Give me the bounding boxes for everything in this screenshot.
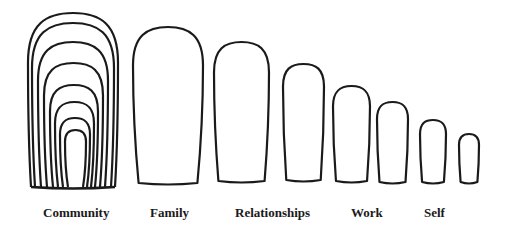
dome-shapes [133,27,479,185]
label-self: Self [424,205,445,220]
dome-relationships [214,42,269,183]
community-arch [65,130,86,187]
dome-shape-4 [283,64,324,182]
label-work: Work [351,205,383,220]
label-family: Family [150,205,189,220]
community-base-line [31,187,115,189]
dome-shape-8 [459,134,479,184]
label-community: Community [43,205,109,220]
dome-self [420,120,446,184]
diagram-canvas [0,0,506,225]
dome-family [133,27,203,185]
dome-shape-6 [377,102,408,184]
label-relationships: Relationships [235,205,310,220]
community-arch [28,13,118,187]
community-nested-arches [28,13,118,189]
dome-work [333,86,370,183]
